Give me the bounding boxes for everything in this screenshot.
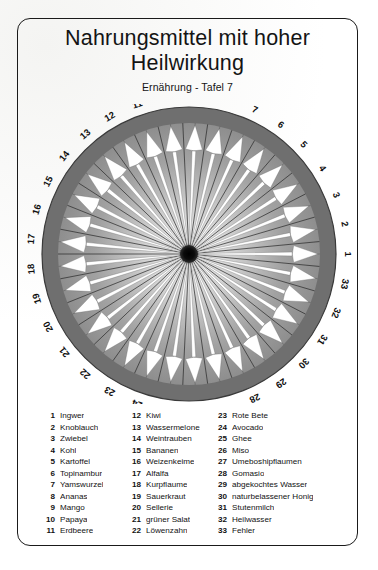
legend-item-number: 30 bbox=[212, 491, 232, 503]
wheel-number-label: 23 bbox=[102, 384, 117, 399]
legend-item-label: Yamswurzel bbox=[60, 479, 103, 491]
legend-item-label: Knoblauch bbox=[60, 422, 98, 434]
wheel-number-label: 29 bbox=[274, 376, 289, 391]
legend-item-number: 28 bbox=[212, 468, 232, 480]
page-subtitle: Ernährung - Tafel 7 bbox=[17, 81, 358, 94]
legend-item-label: Topinambur bbox=[60, 468, 102, 480]
legend-item-number: 17 bbox=[126, 468, 146, 480]
legend-item-number: 14 bbox=[126, 433, 146, 445]
legend-item-label: Gomasio bbox=[232, 468, 264, 480]
legend-item: 18Kurpflaume bbox=[126, 479, 212, 491]
legend-item: 11Erdbeere bbox=[40, 525, 126, 537]
wheel-number-label: 16 bbox=[30, 203, 43, 216]
legend-item-label: Zwiebel bbox=[60, 433, 88, 445]
wheel-number-label: 20 bbox=[40, 320, 55, 334]
legend-item: 4Kohl bbox=[40, 445, 126, 457]
wheel-number-label: 33 bbox=[339, 278, 352, 290]
legend-item: 26Miso bbox=[212, 445, 352, 457]
legend-item: 1Ingwer bbox=[40, 410, 126, 422]
wheel-number-label: 13 bbox=[77, 126, 92, 141]
wheel-number-label: 31 bbox=[315, 333, 330, 348]
legend-item-number: 33 bbox=[212, 525, 232, 537]
legend-item-label: Wassermelone bbox=[146, 422, 200, 434]
legend-item-label: Bananen bbox=[146, 445, 178, 457]
legend-item-number: 7 bbox=[40, 479, 60, 491]
legend-columns: 1Ingwer2Knoblauch3Zwiebel4Kohl5Kartoffel… bbox=[40, 410, 362, 537]
legend-item: 30naturbelassener Honig bbox=[212, 491, 352, 503]
legend-item: 23Rote Bete bbox=[212, 410, 352, 422]
wheel-number-label: 4 bbox=[317, 163, 329, 174]
wheel-center-hub bbox=[180, 245, 198, 263]
legend-item-label: Avocado bbox=[232, 422, 263, 434]
wheel-number-label: 24 bbox=[130, 397, 144, 404]
wheel-number-label: 30 bbox=[296, 356, 311, 371]
legend-item-number: 21 bbox=[126, 514, 146, 526]
legend-column-3: 23Rote Bete24Avocado25Ghee26Miso27Umebos… bbox=[212, 410, 352, 537]
wheel-number-label: 18 bbox=[25, 263, 37, 274]
legend-item: 32Heilwasser bbox=[212, 514, 352, 526]
legend-item-number: 16 bbox=[126, 456, 146, 468]
legend-item-number: 9 bbox=[40, 502, 60, 514]
legend-item-label: Kurpflaume bbox=[146, 479, 187, 491]
legend-item-label: Papaya bbox=[60, 514, 87, 526]
legend-item: 22Löwenzahn bbox=[126, 525, 212, 537]
legend-item-label: naturbelassener Honig bbox=[232, 491, 313, 503]
legend-item-number: 13 bbox=[126, 422, 146, 434]
legend-item-label: Sellerie bbox=[146, 502, 173, 514]
legend-item-number: 6 bbox=[40, 468, 60, 480]
legend-item: 2Knoblauch bbox=[40, 422, 126, 434]
legend-item: 33Fehler bbox=[212, 525, 352, 537]
wheel-number-label: 3 bbox=[331, 190, 343, 199]
legend-item: 21grüner Salat bbox=[126, 514, 212, 526]
wheel-number-label: 21 bbox=[56, 345, 71, 360]
legend-item: 31Stutenmilch bbox=[212, 502, 352, 514]
legend-item-number: 23 bbox=[212, 410, 232, 422]
legend-item-label: Ingwer bbox=[60, 410, 84, 422]
legend-item-number: 11 bbox=[40, 525, 60, 537]
legend-item-label: abgekochtes Wasser bbox=[232, 479, 307, 491]
legend-item-label: Stutenmilch bbox=[232, 502, 274, 514]
wheel-number-label: 19 bbox=[30, 292, 43, 305]
wheel-number-label: 17 bbox=[25, 233, 37, 244]
legend-item-number: 24 bbox=[212, 422, 232, 434]
legend-item: 29abgekochtes Wasser bbox=[212, 479, 352, 491]
wheel-number-label: 11 bbox=[131, 104, 144, 111]
legend-item: 25Ghee bbox=[212, 433, 352, 445]
legend-item: 13Wassermelone bbox=[126, 422, 212, 434]
wheel-number-label: 5 bbox=[298, 139, 310, 150]
legend-item-label: Löwenzahn bbox=[146, 525, 187, 537]
legend-item-label: Umeboshipflaumen bbox=[232, 456, 302, 468]
legend-item: 12Kiwi bbox=[126, 410, 212, 422]
legend-item-number: 4 bbox=[40, 445, 60, 457]
legend-item-label: Sauerkraut bbox=[146, 491, 186, 503]
legend-item: 8Ananas bbox=[40, 491, 126, 503]
legend-item: 24Avocado bbox=[212, 422, 352, 434]
legend-item-number: 2 bbox=[40, 422, 60, 434]
legend-item-number: 22 bbox=[126, 525, 146, 537]
wheel-number-label: 8 bbox=[223, 104, 231, 105]
wheel-number-label: 7 bbox=[250, 104, 259, 115]
wheel-svg: 1234567891011121314151617181920212223242… bbox=[0, 104, 378, 404]
wheel-number-label: 6 bbox=[276, 118, 287, 130]
legend-item-label: grüner Salat bbox=[146, 514, 190, 526]
legend-item: 10Papaya bbox=[40, 514, 126, 526]
legend-item-label: Kartoffel bbox=[60, 456, 90, 468]
legend-item: 9Mango bbox=[40, 502, 126, 514]
radial-wheel-diagram: 1234567891011121314151617181920212223242… bbox=[0, 104, 378, 404]
legend-item-number: 18 bbox=[126, 479, 146, 491]
legend-item-label: Mango bbox=[60, 502, 85, 514]
legend-column-1: 1Ingwer2Knoblauch3Zwiebel4Kohl5Kartoffel… bbox=[40, 410, 126, 537]
wheel-number-label: 28 bbox=[248, 391, 262, 404]
legend-item-number: 29 bbox=[212, 479, 232, 491]
legend-item-label: Weizenkeime bbox=[146, 456, 194, 468]
wheel-number-label: 12 bbox=[102, 109, 117, 124]
legend-item-number: 20 bbox=[126, 502, 146, 514]
legend-item-label: Heilwasser bbox=[232, 514, 272, 526]
legend-item: 7Yamswurzel bbox=[40, 479, 126, 491]
legend-item-label: Alfalfa bbox=[146, 468, 169, 480]
wheel-number-label: 32 bbox=[330, 306, 344, 320]
legend-column-2: 12Kiwi13Wassermelone14Weintrauben15Banan… bbox=[126, 410, 212, 537]
legend-item-number: 31 bbox=[212, 502, 232, 514]
legend-item-label: Weintrauben bbox=[146, 433, 192, 445]
legend-item-label: Ananas bbox=[60, 491, 87, 503]
